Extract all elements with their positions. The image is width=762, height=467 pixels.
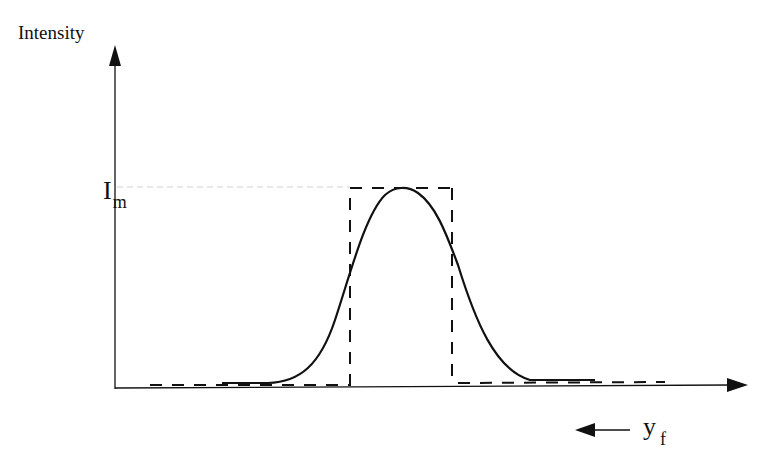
peak-label-subscript: m xyxy=(113,192,127,212)
intensity-diagram xyxy=(0,0,762,467)
peak-intensity-label: Im xyxy=(103,176,126,206)
top-hat-profile xyxy=(150,188,665,386)
x-axis xyxy=(115,378,748,392)
left-arrow-icon xyxy=(575,423,595,437)
y-axis xyxy=(109,45,121,389)
gaussian-profile xyxy=(222,188,595,383)
direction-label-subscript: f xyxy=(660,429,666,449)
y-axis-arrow-icon xyxy=(109,45,121,66)
y-axis-label: Intensity xyxy=(18,22,85,44)
peak-label-main: I xyxy=(103,176,112,205)
direction-label-main: y xyxy=(643,412,656,441)
direction-label: yf xyxy=(643,412,662,442)
yf-direction-arrow xyxy=(575,423,630,437)
x-axis-arrow-icon xyxy=(727,378,748,392)
